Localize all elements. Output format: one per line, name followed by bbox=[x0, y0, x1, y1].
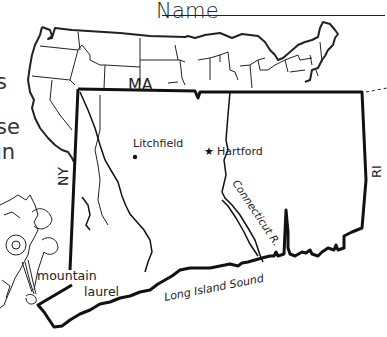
state-label-ri: RI bbox=[369, 165, 384, 178]
litchfield-marker-dot bbox=[133, 155, 137, 159]
state-label-ny: NY bbox=[55, 167, 71, 186]
state-label-ma: MA bbox=[128, 75, 153, 94]
connecticut-river bbox=[222, 92, 263, 262]
western-river bbox=[80, 92, 152, 272]
city-label-litchfield: Litchfield bbox=[133, 137, 183, 150]
flower-label-line2: laurel bbox=[84, 284, 119, 299]
connecticut-map: ★ MA NY RI Litchfield Hartford Connectic… bbox=[0, 0, 387, 337]
state-border-dashed bbox=[366, 88, 387, 92]
water-label-long-island-sound: Long Island Sound bbox=[163, 272, 266, 304]
hartford-capital-star-icon: ★ bbox=[204, 145, 214, 157]
flower-label-line1: mountain bbox=[37, 268, 97, 283]
mountain-laurel-illustration bbox=[0, 195, 58, 308]
city-label-hartford: Hartford bbox=[217, 145, 263, 158]
